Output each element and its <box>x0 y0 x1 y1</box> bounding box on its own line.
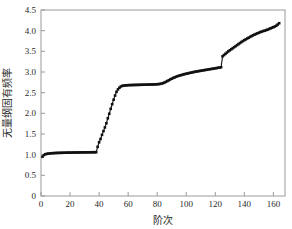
y-tick-label: 2.5 <box>25 88 37 98</box>
x-tick-label: 80 <box>153 199 163 209</box>
x-axis-tick-labels: 020406080100120140160 <box>39 199 281 209</box>
data-point-marker <box>108 112 111 115</box>
data-point-marker <box>111 103 114 106</box>
x-tick-label: 20 <box>66 199 76 209</box>
x-axis-ticks <box>41 192 273 196</box>
x-tick-label: 100 <box>179 199 193 209</box>
data-series <box>41 22 280 158</box>
data-point-marker <box>278 22 281 25</box>
data-point-marker <box>101 134 104 137</box>
y-tick-label: 1.0 <box>25 150 37 160</box>
y-tick-label: 0 <box>32 191 37 201</box>
data-point-marker <box>220 66 223 69</box>
y-tick-label: 3.5 <box>25 46 37 56</box>
y-tick-label: 4.5 <box>25 5 37 15</box>
chart-svg: 020406080100120140160 00.51.01.52.02.53.… <box>0 0 292 229</box>
y-tick-label: 2.0 <box>25 108 37 118</box>
data-point-marker <box>104 126 107 129</box>
x-tick-label: 160 <box>267 199 281 209</box>
x-tick-label: 60 <box>124 199 134 209</box>
x-axis-title: 阶次 <box>153 214 173 226</box>
chart-container: 020406080100120140160 00.51.01.52.02.53.… <box>0 0 292 229</box>
y-tick-label: 0.5 <box>25 170 37 180</box>
y-tick-label: 3.0 <box>25 67 37 77</box>
y-tick-label: 4.0 <box>25 26 37 36</box>
data-point-marker <box>102 130 105 133</box>
data-point-marker <box>95 151 98 154</box>
data-point-marker <box>109 107 112 110</box>
data-point-marker <box>112 98 115 101</box>
y-axis-tick-labels: 00.51.01.52.02.53.03.54.04.5 <box>25 5 37 201</box>
data-point-marker <box>115 91 118 94</box>
x-tick-label: 120 <box>209 199 223 209</box>
series-line <box>42 23 279 157</box>
x-tick-label: 140 <box>238 199 252 209</box>
data-point-marker <box>98 141 101 144</box>
data-point-marker <box>99 138 102 141</box>
x-tick-label: 0 <box>39 199 44 209</box>
data-point-marker <box>107 117 110 120</box>
data-point-marker <box>105 122 108 125</box>
x-tick-label: 40 <box>95 199 105 209</box>
y-axis-ticks <box>41 10 45 196</box>
y-axis-title: 无量纲固有频率 <box>1 68 13 138</box>
y-tick-label: 1.5 <box>25 129 37 139</box>
data-point-marker <box>96 146 99 149</box>
data-point-marker <box>114 94 117 97</box>
